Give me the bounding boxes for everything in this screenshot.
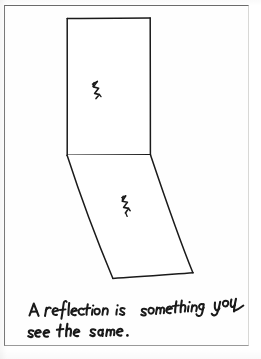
handwriting-line-1	[30, 299, 244, 319]
handwriting-line-2	[28, 324, 129, 337]
scanned-worksheet-page	[0, 0, 261, 359]
handwritten-caption	[0, 0, 261, 359]
